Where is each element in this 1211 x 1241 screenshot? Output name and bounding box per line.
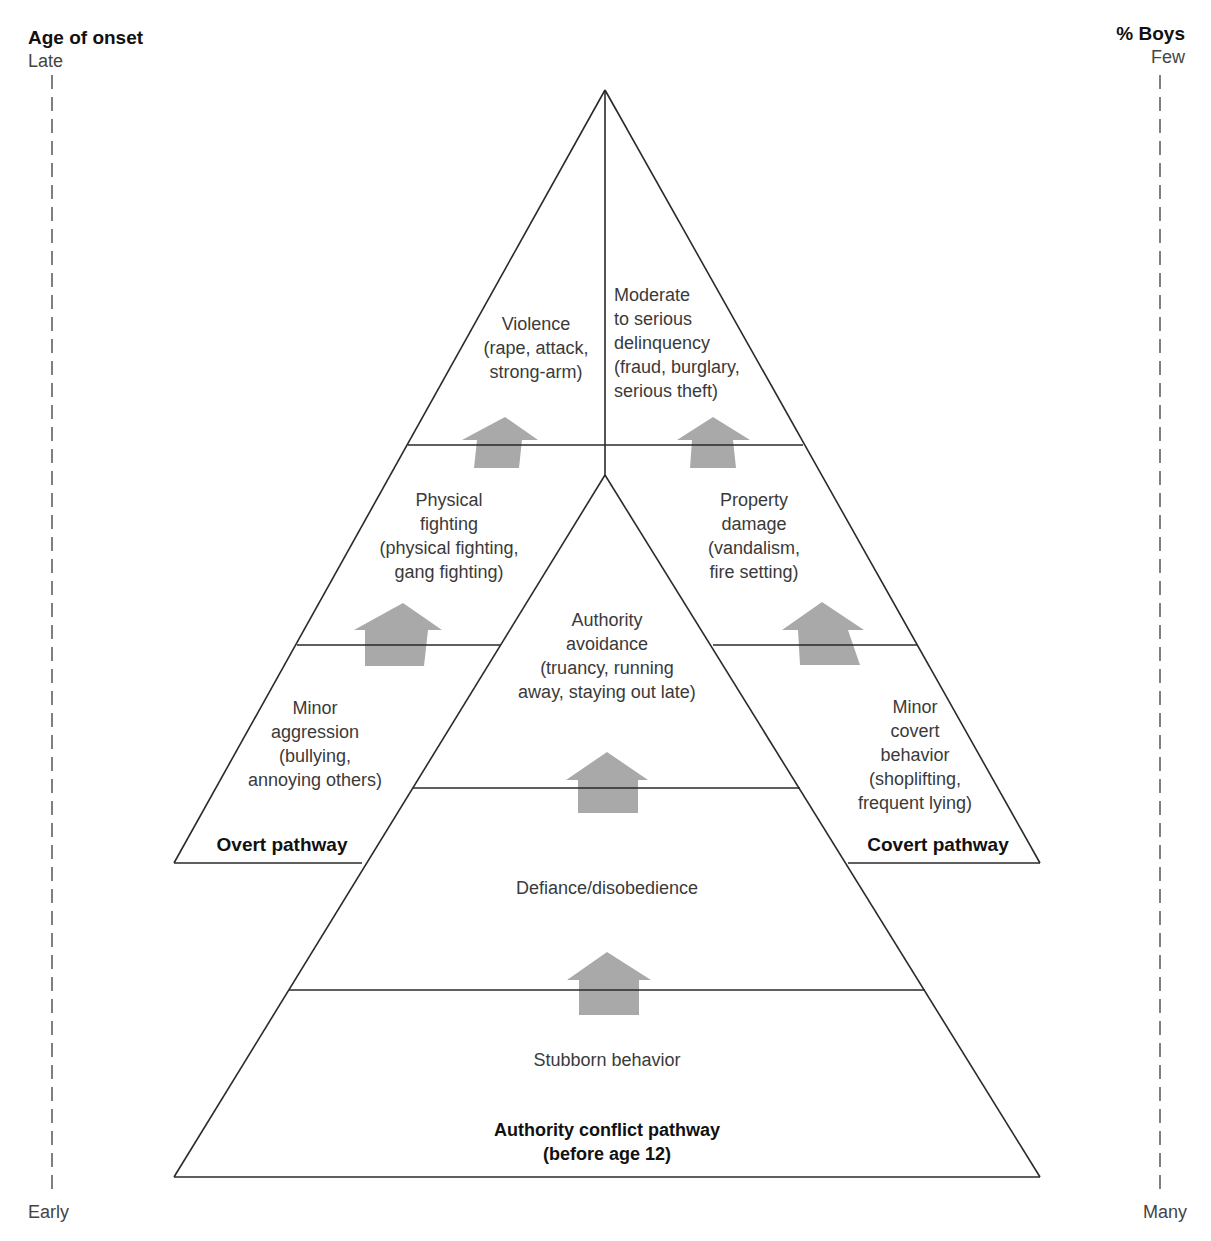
arrow-up-icon xyxy=(462,417,538,468)
boys-axis-few: Few xyxy=(1151,47,1185,68)
boys-axis-many: Many xyxy=(1143,1202,1187,1223)
arrow-up-icon xyxy=(677,417,750,468)
arrow-up-icon xyxy=(782,602,864,665)
overt-pathway-label: Overt pathway xyxy=(192,833,372,857)
overt-level-violence: Violence (rape, attack, strong-arm) xyxy=(436,312,636,384)
age-axis-late: Late xyxy=(28,51,63,72)
boys-axis-title: % Boys xyxy=(1116,23,1185,45)
authority-pathway-label: Authority conflict pathway (before age 1… xyxy=(407,1118,807,1166)
covert-pathway-label: Covert pathway xyxy=(850,833,1026,857)
arrow-up-icon xyxy=(567,952,651,1015)
overt-level-minor-aggression: Minor aggression (bullying, annoying oth… xyxy=(215,696,415,792)
age-axis-early: Early xyxy=(28,1202,69,1223)
age-axis-title: Age of onset xyxy=(28,27,143,49)
covert-level-delinquency: Moderate to serious delinquency (fraud, … xyxy=(614,283,774,403)
authority-level-avoidance: Authority avoidance (truancy, running aw… xyxy=(482,608,732,704)
arrow-up-icon xyxy=(354,603,442,666)
covert-level-minor-covert: Minor covert behavior (shoplifting, freq… xyxy=(815,695,1015,815)
authority-level-defiance: Defiance/disobedience xyxy=(457,876,757,900)
authority-level-stubborn: Stubborn behavior xyxy=(457,1048,757,1072)
covert-level-property-damage: Property damage (vandalism, fire setting… xyxy=(654,488,854,584)
arrow-up-icon xyxy=(566,752,648,813)
overt-level-physical-fighting: Physical fighting (physical fighting, ga… xyxy=(349,488,549,584)
